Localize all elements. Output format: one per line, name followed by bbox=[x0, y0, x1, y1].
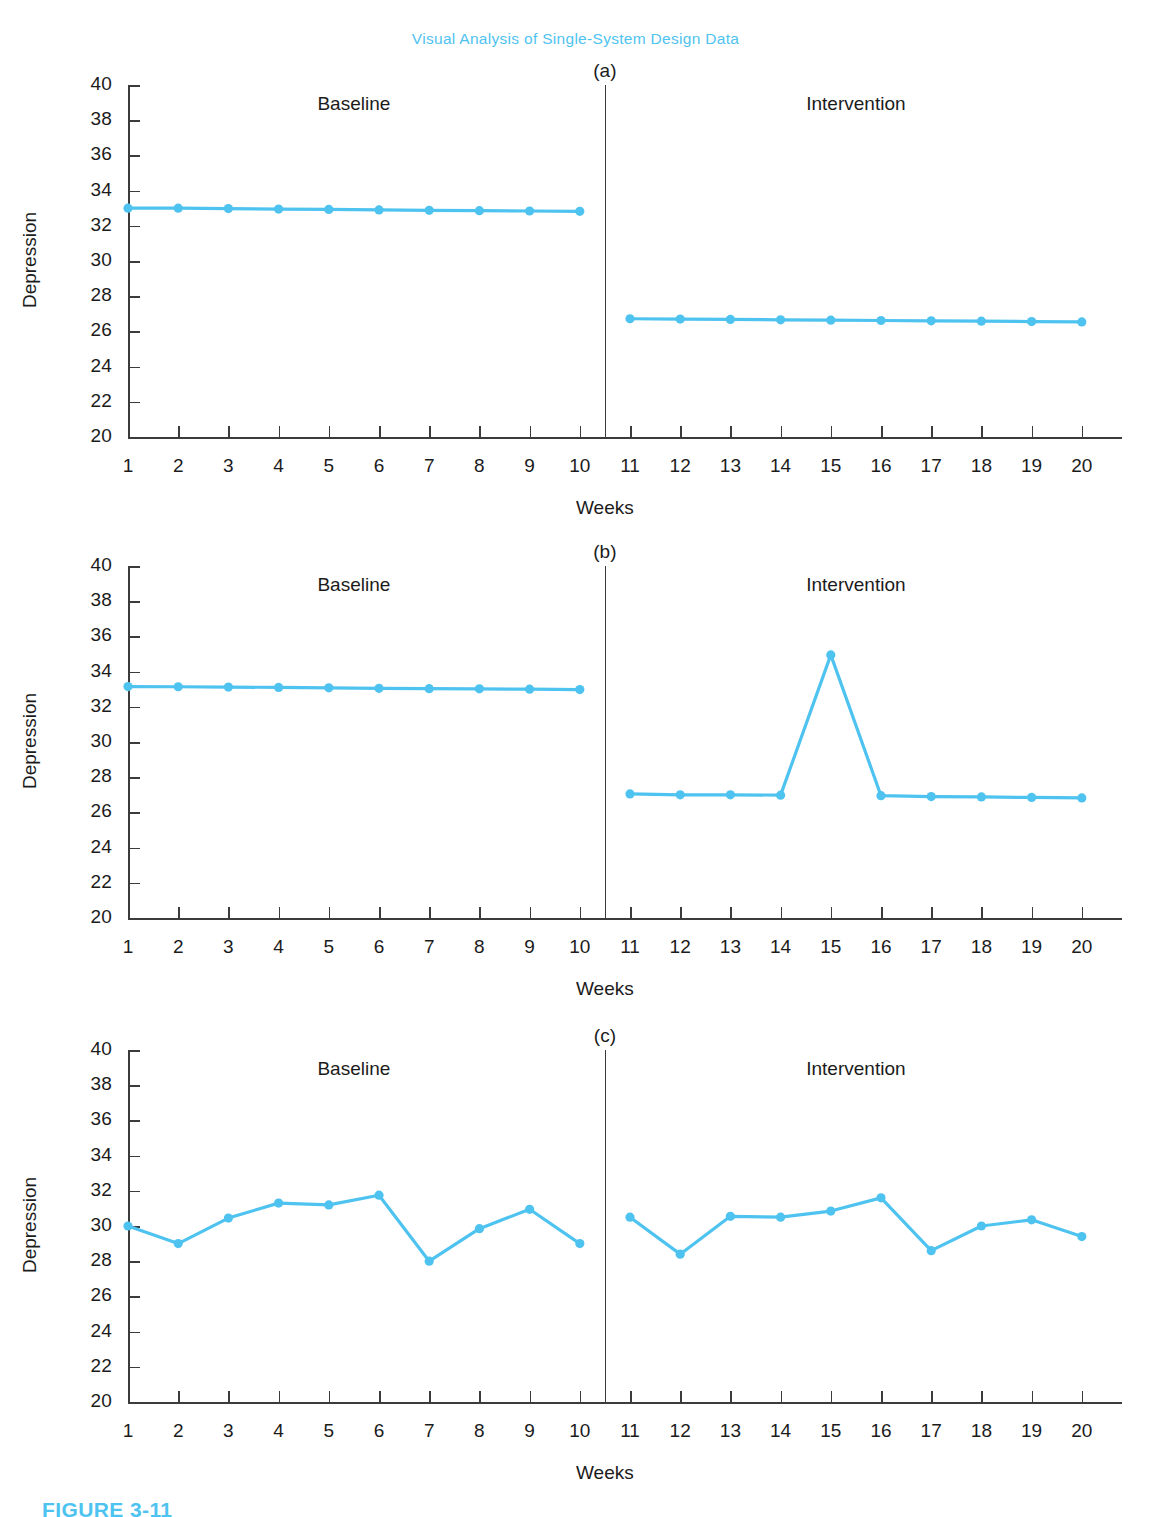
x-axis-tick bbox=[630, 1391, 632, 1402]
data-point-marker bbox=[1027, 1215, 1036, 1224]
x-axis-tick bbox=[128, 1391, 130, 1402]
x-axis-tick bbox=[530, 907, 532, 918]
data-point-marker bbox=[826, 1206, 835, 1215]
y-axis-tick bbox=[129, 883, 140, 885]
x-axis-tick bbox=[730, 1391, 732, 1402]
x-axis-tick-label: 11 bbox=[610, 455, 650, 477]
data-point-marker bbox=[927, 316, 936, 325]
x-axis-tick-label: 6 bbox=[359, 1420, 399, 1442]
x-axis-tick-label: 5 bbox=[309, 936, 349, 958]
y-axis-tick-label: 34 bbox=[66, 660, 112, 682]
data-point-marker bbox=[977, 1221, 986, 1230]
x-axis-tick-label: 16 bbox=[861, 936, 901, 958]
y-axis-tick bbox=[129, 1367, 140, 1369]
x-axis-tick bbox=[931, 426, 933, 437]
x-axis-tick-label: 8 bbox=[459, 1420, 499, 1442]
x-axis-tick-label: 3 bbox=[208, 1420, 248, 1442]
y-axis-tick-label: 32 bbox=[66, 695, 112, 717]
y-axis-tick-label: 36 bbox=[66, 143, 112, 165]
data-point-marker bbox=[676, 790, 685, 799]
y-axis-tick bbox=[129, 1296, 140, 1298]
y-axis-tick-label: 22 bbox=[66, 390, 112, 412]
data-point-marker bbox=[726, 315, 735, 324]
data-point-marker bbox=[374, 1191, 383, 1200]
x-axis-tick-label: 4 bbox=[259, 455, 299, 477]
x-axis-tick bbox=[329, 426, 331, 437]
y-axis-tick-label: 30 bbox=[66, 1214, 112, 1236]
x-axis-tick-label: 20 bbox=[1062, 1420, 1102, 1442]
y-axis-tick bbox=[129, 1191, 140, 1193]
data-point-marker bbox=[575, 207, 584, 216]
x-axis-tick-label: 1 bbox=[108, 936, 148, 958]
y-axis-tick-label: 22 bbox=[66, 871, 112, 893]
y-axis-tick-label: 36 bbox=[66, 1108, 112, 1130]
y-axis-tick bbox=[129, 707, 140, 709]
phase-change-line bbox=[605, 85, 607, 437]
x-axis-tick-label: 19 bbox=[1012, 1420, 1052, 1442]
y-axis-title: Depression bbox=[19, 681, 41, 801]
x-axis-tick bbox=[228, 1391, 230, 1402]
y-axis-tick bbox=[129, 331, 140, 333]
data-point-marker bbox=[927, 1246, 936, 1255]
x-axis-tick-label: 20 bbox=[1062, 936, 1102, 958]
x-axis-tick bbox=[931, 907, 933, 918]
data-point-marker bbox=[1027, 793, 1036, 802]
x-axis-tick-label: 9 bbox=[510, 1420, 550, 1442]
data-point-marker bbox=[475, 684, 484, 693]
x-axis-tick-label: 7 bbox=[409, 936, 449, 958]
data-point-marker bbox=[625, 1213, 634, 1222]
data-point-marker bbox=[425, 684, 434, 693]
x-axis-tick-label: 8 bbox=[459, 455, 499, 477]
y-axis-title: Depression bbox=[19, 1165, 41, 1285]
x-axis-tick-label: 12 bbox=[660, 1420, 700, 1442]
y-axis-tick bbox=[129, 226, 140, 228]
y-axis-tick bbox=[129, 636, 140, 638]
data-point-marker bbox=[876, 1193, 885, 1202]
x-axis-tick bbox=[479, 907, 481, 918]
x-axis-title: Weeks bbox=[525, 1462, 685, 1484]
x-axis-tick bbox=[831, 907, 833, 918]
y-axis-tick-label: 32 bbox=[66, 214, 112, 236]
x-axis-tick bbox=[630, 907, 632, 918]
y-axis-tick bbox=[129, 1261, 140, 1263]
y-axis-tick-label: 36 bbox=[66, 624, 112, 646]
chart-panel-c: 2022242628303234363840123456789101112131… bbox=[0, 1025, 1151, 1517]
y-axis-tick-label: 32 bbox=[66, 1179, 112, 1201]
y-axis-tick bbox=[129, 918, 140, 920]
x-axis-line bbox=[128, 437, 1122, 439]
series-line-intervention bbox=[630, 319, 1082, 322]
data-point-marker bbox=[1077, 1232, 1086, 1241]
data-point-marker bbox=[224, 1213, 233, 1222]
data-point-marker bbox=[475, 206, 484, 215]
y-axis-tick bbox=[129, 85, 140, 87]
x-axis-tick bbox=[479, 1391, 481, 1402]
y-axis-tick-label: 26 bbox=[66, 800, 112, 822]
data-point-marker bbox=[575, 685, 584, 694]
x-axis-tick bbox=[580, 426, 582, 437]
x-axis-tick-label: 11 bbox=[610, 1420, 650, 1442]
x-axis-tick-label: 1 bbox=[108, 1420, 148, 1442]
y-axis-tick-label: 22 bbox=[66, 1355, 112, 1377]
series-line-intervention bbox=[630, 1198, 1082, 1254]
y-axis-tick-label: 30 bbox=[66, 730, 112, 752]
x-axis-tick-label: 17 bbox=[911, 455, 951, 477]
data-series-layer bbox=[0, 60, 1151, 440]
x-axis-tick bbox=[329, 907, 331, 918]
y-axis-tick bbox=[129, 296, 140, 298]
x-axis-tick-label: 18 bbox=[961, 1420, 1001, 1442]
y-axis-tick bbox=[129, 1120, 140, 1122]
x-axis-tick bbox=[329, 1391, 331, 1402]
intervention-phase-label: Intervention bbox=[746, 574, 966, 596]
y-axis-tick bbox=[129, 1156, 140, 1158]
data-point-marker bbox=[425, 206, 434, 215]
data-point-marker bbox=[726, 790, 735, 799]
x-axis-tick bbox=[981, 907, 983, 918]
x-axis-tick bbox=[781, 1391, 783, 1402]
x-axis-tick bbox=[981, 426, 983, 437]
x-axis-tick-label: 10 bbox=[560, 455, 600, 477]
y-axis-tick-label: 38 bbox=[66, 108, 112, 130]
x-axis-tick bbox=[128, 426, 130, 437]
x-axis-tick-label: 13 bbox=[710, 455, 750, 477]
baseline-phase-label: Baseline bbox=[244, 1058, 464, 1080]
x-axis-tick bbox=[479, 426, 481, 437]
